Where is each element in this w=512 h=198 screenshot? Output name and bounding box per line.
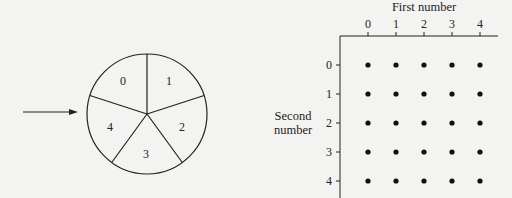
spinner: 0 1 2 3 4 xyxy=(87,54,207,174)
x-tick-4: 4 xyxy=(477,17,483,31)
pointer-arrow-icon xyxy=(23,109,78,115)
y-tick-3: 3 xyxy=(326,145,332,159)
y-tick-2: 2 xyxy=(326,116,332,130)
y-axis-title-line1: Second xyxy=(275,109,313,123)
x-tick-2: 2 xyxy=(421,17,427,31)
x-tick-1: 1 xyxy=(393,17,399,31)
y-axis-title-line2: number xyxy=(274,123,313,137)
x-ticks: 0 1 2 3 4 xyxy=(365,17,483,36)
y-tick-1: 1 xyxy=(326,87,332,101)
sector-label-1: 1 xyxy=(166,74,172,88)
sector-label-3: 3 xyxy=(143,147,149,161)
y-ticks: 0 1 2 3 4 xyxy=(326,58,340,188)
x-axis-title: First number xyxy=(392,0,457,14)
outcome-grid: First number 0 1 2 3 4 0 1 2 3 4 xyxy=(274,0,498,198)
sector-label-2: 2 xyxy=(179,120,185,134)
x-tick-0: 0 xyxy=(365,17,371,31)
data-points xyxy=(365,62,482,183)
y-tick-4: 4 xyxy=(326,174,332,188)
sector-label-0: 0 xyxy=(120,74,126,88)
y-tick-0: 0 xyxy=(326,58,332,72)
x-tick-3: 3 xyxy=(449,17,455,31)
sector-label-4: 4 xyxy=(107,120,113,134)
diagram-canvas: 0 1 2 3 4 First number 0 1 2 3 4 xyxy=(0,0,512,198)
